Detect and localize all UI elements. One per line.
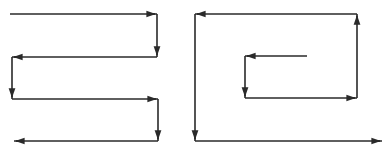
spiral-panel [195, 14, 382, 141]
zigzag-panel [10, 14, 158, 141]
diagram-canvas [0, 0, 388, 156]
